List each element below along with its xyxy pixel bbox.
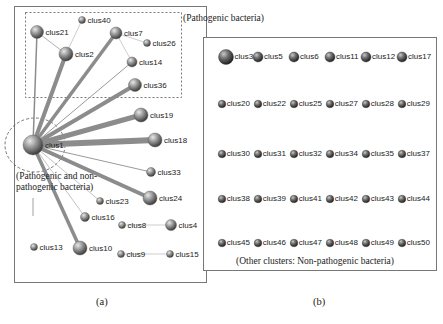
node-clus28[interactable]: clus28	[362, 99, 394, 108]
node-label: clus26	[153, 39, 177, 48]
node-clus5[interactable]: clus5	[253, 52, 283, 62]
node-sphere-icon	[290, 150, 298, 158]
node-label: clus33	[158, 168, 182, 177]
node-clus9[interactable]: clus9	[118, 250, 146, 259]
node-label: clus46	[263, 238, 287, 247]
node-sphere-icon	[110, 27, 122, 39]
node-clus15[interactable]: clus15	[167, 250, 200, 259]
cluster-network-figure: clus1clus21clus40clus2clus7clus26clus14c…	[0, 0, 443, 324]
node-sphere-icon	[218, 100, 226, 108]
node-label: clus36	[144, 81, 168, 90]
node-sphere-icon	[218, 150, 226, 158]
node-sphere-icon	[362, 239, 370, 247]
node-clus34[interactable]: clus34	[326, 149, 358, 158]
node-label: clus21	[46, 28, 70, 37]
node-sphere-icon	[325, 52, 335, 62]
node-clus6[interactable]: clus6	[289, 52, 319, 62]
node-label: clus4	[179, 221, 198, 230]
node-clus35[interactable]: clus35	[362, 149, 394, 158]
node-clus25[interactable]: clus25	[290, 99, 322, 108]
node-label: clus12	[372, 52, 396, 61]
node-label: clus19	[150, 111, 174, 120]
node-label: clus17	[408, 52, 432, 61]
node-clus44[interactable]: clus44	[398, 194, 430, 203]
node-sphere-icon	[253, 52, 263, 62]
node-sphere-icon	[254, 239, 262, 247]
node-label: clus10	[89, 244, 113, 253]
node-clus40[interactable]: clus40	[79, 16, 112, 25]
node-clus41[interactable]: clus41	[290, 194, 322, 203]
node-sphere-icon	[362, 100, 370, 108]
node-clus10[interactable]: clus10	[73, 241, 113, 255]
node-label: clus5	[264, 52, 283, 61]
node-clus17[interactable]: clus17	[397, 52, 432, 62]
node-clus8[interactable]: clus8	[119, 221, 147, 230]
node-sphere-icon	[118, 251, 125, 258]
node-clus22[interactable]: clus22	[254, 99, 286, 108]
node-sphere-icon	[129, 79, 142, 92]
node-clus13[interactable]: clus13	[31, 243, 64, 252]
node-sphere-icon	[290, 100, 298, 108]
node-clus23[interactable]: clus23	[97, 197, 130, 206]
node-clus36[interactable]: clus36	[129, 79, 168, 92]
node-clus24[interactable]: clus24	[143, 191, 183, 205]
node-clus19[interactable]: clus19	[134, 108, 174, 122]
node-clus45[interactable]: clus45	[218, 238, 250, 247]
node-clus29[interactable]: clus29	[398, 99, 430, 108]
node-sphere-icon	[290, 195, 298, 203]
node-clus50[interactable]: clus50	[398, 238, 430, 247]
node-label: clus3	[235, 52, 254, 61]
node-sphere-icon	[31, 244, 38, 251]
node-clus14[interactable]: clus14	[127, 57, 163, 67]
node-clus26[interactable]: clus26	[144, 39, 177, 48]
node-label: clus35	[371, 149, 395, 158]
node-label: clus18	[164, 136, 188, 145]
node-clus21[interactable]: clus21	[31, 26, 70, 39]
node-clus32[interactable]: clus32	[290, 149, 322, 158]
node-clus18[interactable]: clus18	[148, 133, 188, 147]
node-sphere-icon	[326, 195, 334, 203]
node-clus27[interactable]: clus27	[326, 99, 358, 108]
node-clus42[interactable]: clus42	[326, 194, 358, 203]
node-clus20[interactable]: clus20	[218, 99, 250, 108]
node-clus38[interactable]: clus38	[218, 194, 250, 203]
node-clus31[interactable]: clus31	[254, 149, 286, 158]
node-clus43[interactable]: clus43	[362, 194, 394, 203]
node-clus37[interactable]: clus37	[398, 149, 430, 158]
node-sphere-icon	[361, 52, 371, 62]
node-label: clus20	[227, 99, 251, 108]
node-clus46[interactable]: clus46	[254, 238, 286, 247]
node-label: clus14	[139, 58, 163, 67]
node-clus30[interactable]: clus30	[218, 149, 250, 158]
node-sphere-icon	[362, 195, 370, 203]
node-label: clus40	[88, 16, 112, 25]
node-clus48[interactable]: clus48	[326, 238, 358, 247]
node-label: clus39	[263, 194, 287, 203]
node-sphere-icon	[218, 239, 226, 247]
panel-b: clus3clus5clus6clus11clus12clus17clus20c…	[204, 38, 437, 309]
node-clus49[interactable]: clus49	[362, 238, 394, 247]
node-sphere-icon	[326, 100, 334, 108]
node-sphere-icon	[398, 195, 406, 203]
node-sphere-icon	[290, 239, 298, 247]
node-label: clus41	[299, 194, 323, 203]
node-clus11[interactable]: clus11	[325, 52, 359, 62]
node-clus4[interactable]: clus4	[166, 220, 198, 231]
node-label: clus32	[299, 149, 323, 158]
node-sphere-icon	[219, 50, 234, 65]
node-sphere-icon	[119, 222, 126, 229]
node-sphere-icon	[289, 52, 299, 62]
node-clus33[interactable]: clus33	[147, 168, 182, 178]
node-label: clus27	[335, 99, 359, 108]
node-label: clus13	[40, 243, 64, 252]
node-label: clus31	[263, 149, 287, 158]
node-sphere-icon	[326, 239, 334, 247]
node-clus39[interactable]: clus39	[254, 194, 286, 203]
node-clus12[interactable]: clus12	[361, 52, 396, 62]
node-clus16[interactable]: clus16	[81, 213, 116, 223]
node-clus2[interactable]: clus2	[59, 47, 94, 61]
node-sphere-icon	[254, 150, 262, 158]
node-clus47[interactable]: clus47	[290, 238, 322, 247]
node-sphere-icon	[59, 47, 73, 61]
node-clus7[interactable]: clus7	[110, 27, 143, 39]
